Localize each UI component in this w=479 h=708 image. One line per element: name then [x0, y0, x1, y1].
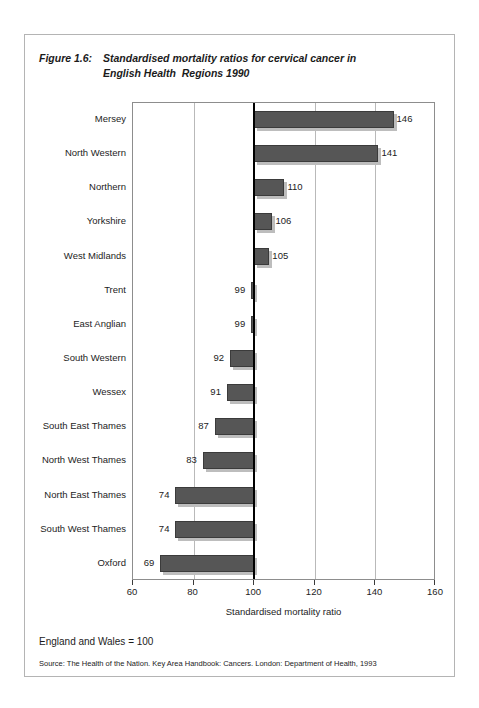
x-axis-tick-label: 160 — [427, 586, 443, 597]
bar-value-label: 110 — [288, 178, 303, 195]
bar[interactable] — [160, 555, 254, 572]
bar-value-label: 106 — [275, 212, 291, 229]
bar-value-label: 141 — [381, 144, 397, 161]
figure-title: Figure 1.6: Standardised mortality ratio… — [39, 51, 439, 81]
bar[interactable] — [254, 248, 269, 265]
bar[interactable] — [254, 213, 272, 230]
y-axis-label: North West Thames — [25, 443, 126, 477]
bar-row: 74 — [133, 479, 434, 513]
bar-row: 146 — [133, 103, 434, 137]
x-axis-tick — [434, 580, 435, 585]
bar-value-label: 99 — [235, 281, 246, 298]
bar-row: 105 — [133, 240, 434, 274]
bar[interactable] — [254, 111, 393, 128]
bar-row: 106 — [133, 205, 434, 239]
bar[interactable] — [227, 384, 254, 401]
x-axis-tick — [193, 580, 194, 585]
bar-value-label: 92 — [213, 349, 224, 366]
bar[interactable] — [254, 145, 378, 162]
bar[interactable] — [254, 179, 284, 196]
y-axis-label: East Anglian — [25, 307, 126, 341]
bar[interactable] — [203, 452, 255, 469]
y-axis-label: Wessex — [25, 375, 126, 409]
bar-row: 99 — [133, 308, 434, 342]
y-axis-label: South West Thames — [25, 512, 126, 546]
y-axis-label: Mersey — [25, 102, 126, 136]
figure-title-line-1: Standardised mortality ratios for cervic… — [103, 51, 439, 66]
bar-row: 69 — [133, 547, 434, 581]
bar[interactable] — [215, 418, 254, 435]
bar-row: 87 — [133, 410, 434, 444]
y-axis-label: South East Thames — [25, 409, 126, 443]
source-note: Source: The Health of the Nation. Key Ar… — [39, 659, 377, 668]
plot-area: 146141110106105999992918783747469 — [132, 102, 435, 580]
bar[interactable] — [175, 521, 254, 538]
y-axis-label: South Western — [25, 341, 126, 375]
x-axis-tick-label: 80 — [187, 586, 198, 597]
y-axis-label: Oxford — [25, 546, 126, 580]
x-axis-tick-label: 120 — [306, 586, 322, 597]
x-axis-tick-label: 60 — [127, 586, 138, 597]
figure-title-text: Standardised mortality ratios for cervic… — [103, 51, 439, 81]
reference-note: England and Wales = 100 — [39, 636, 153, 647]
x-axis-title: Standardised mortality ratio — [132, 606, 435, 617]
y-axis-label: Trent — [25, 273, 126, 307]
bar-row: 99 — [133, 274, 434, 308]
y-axis-label: West Midlands — [25, 239, 126, 273]
bar-value-label: 83 — [186, 451, 197, 468]
x-axis-tick — [314, 580, 315, 585]
figure-number-label: Figure 1.6: — [39, 51, 92, 66]
bar-value-label: 105 — [272, 247, 288, 264]
bar-row: 74 — [133, 513, 434, 547]
bar-row: 91 — [133, 376, 434, 410]
y-axis-label: North Western — [25, 136, 126, 170]
figure-card: Figure 1.6: Standardised mortality ratio… — [24, 34, 455, 677]
y-axis-label: Yorkshire — [25, 204, 126, 238]
bar-row: 141 — [133, 137, 434, 171]
x-axis-tick — [132, 580, 133, 585]
x-axis-tick-label: 100 — [245, 586, 261, 597]
y-axis-category-labels: MerseyNorth WesternNorthernYorkshireWest… — [25, 102, 126, 580]
bar[interactable] — [175, 487, 254, 504]
bar-row: 83 — [133, 444, 434, 478]
reference-line-100 — [253, 103, 255, 579]
bar-row: 110 — [133, 171, 434, 205]
bar-value-label: 69 — [144, 554, 155, 571]
bar-row: 92 — [133, 342, 434, 376]
bar-value-label: 87 — [198, 417, 209, 434]
figure-title-line-2: English Health Regions 1990 — [103, 66, 439, 81]
x-axis-tick-labels: 6080100120140160 — [132, 586, 435, 600]
bar[interactable] — [230, 350, 254, 367]
bar-value-label: 91 — [210, 383, 221, 400]
x-axis-tick — [374, 580, 375, 585]
x-axis-tick — [253, 580, 254, 585]
bar-value-label: 146 — [397, 110, 413, 127]
x-axis-tick-label: 140 — [366, 586, 382, 597]
bar-value-label: 74 — [159, 520, 170, 537]
y-axis-label: Northern — [25, 170, 126, 204]
bar-value-label: 99 — [235, 315, 246, 332]
bar-value-label: 74 — [159, 486, 170, 503]
y-axis-label: North East Thames — [25, 478, 126, 512]
x-axis-ticks — [132, 580, 435, 585]
